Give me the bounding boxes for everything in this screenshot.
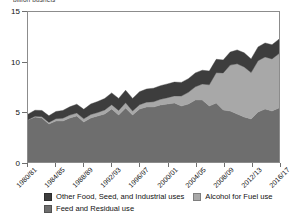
legend-swatch-icon — [193, 193, 201, 201]
chart-figure: billion bushels 051015 1980/811984/85198… — [0, 0, 298, 223]
x-axis-tick-label: 2004/05 — [184, 166, 207, 189]
y-axis-tick-label: 15 — [11, 7, 20, 16]
plot-area — [27, 11, 280, 163]
legend-swatch-icon — [44, 205, 52, 213]
y-axis-tick-label: 10 — [11, 57, 20, 66]
legend-row-1: Other Food, Seed, and Industrial uses Al… — [44, 192, 292, 201]
x-axis-tick-label: 2000/01 — [156, 166, 179, 189]
x-axis-tick-label: 1996/97 — [128, 166, 151, 189]
legend-item-other-food-seed-industrial[interactable]: Other Food, Seed, and Industrial uses — [44, 192, 184, 201]
legend-row-2: Feed and Residual use — [44, 204, 292, 213]
x-axis-tick-label: 2016/17 — [268, 166, 291, 189]
x-axis-tick-label: 1988/89 — [71, 166, 94, 189]
legend-label: Other Food, Seed, and Industrial uses — [56, 192, 184, 201]
legend-label: Alcohol for Fuel use — [205, 192, 272, 201]
legend-item-alcohol-for-fuel[interactable]: Alcohol for Fuel use — [193, 192, 272, 201]
legend-item-feed-and-residual[interactable]: Feed and Residual use — [44, 204, 134, 213]
x-axis-tick-label: 2008/09 — [212, 166, 235, 189]
y-axis-tick-label: 5 — [16, 108, 20, 117]
x-axis-tick-label: 1980/81 — [15, 166, 38, 189]
x-axis-tick-label: 1984/85 — [43, 166, 66, 189]
stacked-area-series — [28, 12, 279, 162]
chart-legend: Other Food, Seed, and Industrial uses Al… — [44, 192, 292, 216]
legend-label: Feed and Residual use — [56, 204, 134, 213]
legend-swatch-icon — [44, 193, 52, 201]
x-axis-tick-label: 2012/13 — [240, 166, 263, 189]
y-axis: 051015 — [0, 0, 27, 175]
x-axis-tick-label: 1992/93 — [99, 166, 122, 189]
